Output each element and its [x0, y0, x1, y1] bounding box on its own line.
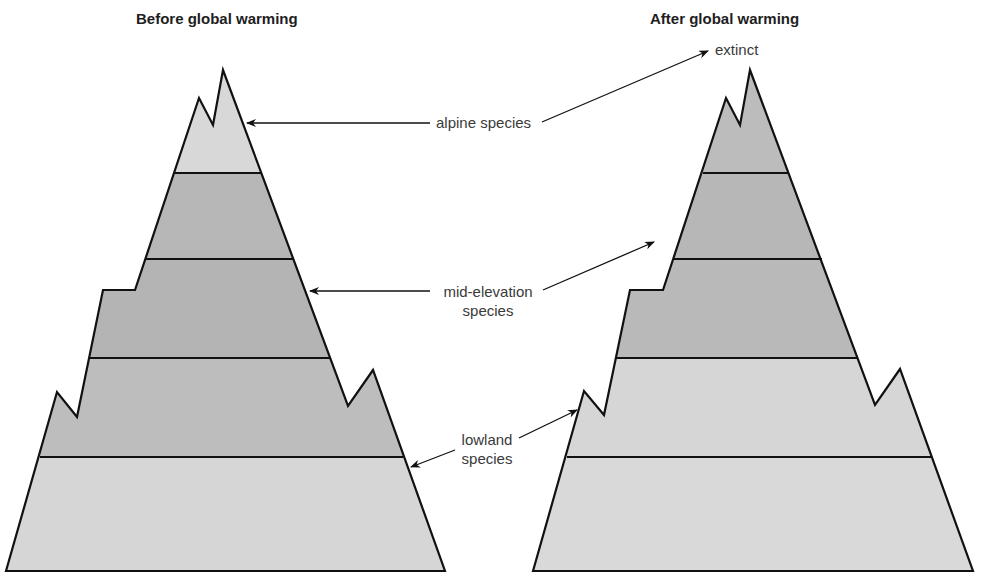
mountain-after [520, 60, 985, 572]
label-alpine: alpine species [436, 113, 531, 132]
label-lowland-line2: species [456, 449, 518, 468]
label-mid-line1: mid-elevation [435, 282, 541, 301]
arrow-mid-after [543, 242, 654, 290]
label-extinct: extinct [715, 40, 758, 59]
band-lowland [0, 457, 460, 572]
band-lowland [520, 457, 985, 572]
label-mid-elevation: mid-elevation species [435, 282, 541, 320]
label-lowland: lowland species [456, 430, 518, 468]
label-lowland-line1: lowland [456, 430, 518, 449]
arrow-alpine-extinct [542, 51, 708, 122]
band-lower-mid [520, 259, 985, 358]
band-upper-lowland [520, 358, 985, 457]
mountain-before [0, 60, 460, 572]
band-alpine [0, 60, 460, 173]
arrow-lowland-before [411, 450, 455, 467]
arrow-lowland-after [519, 410, 577, 438]
label-mid-line2: species [435, 301, 541, 320]
band-upper-mid [0, 173, 460, 259]
band-lower-mid [0, 259, 460, 358]
band-upper-mid [520, 173, 985, 259]
